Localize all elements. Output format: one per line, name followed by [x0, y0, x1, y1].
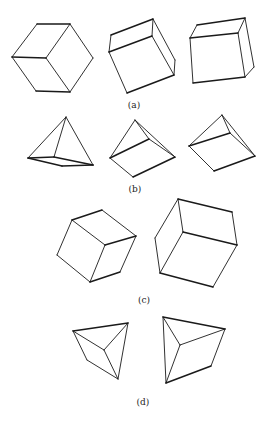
cube-a1 [12, 24, 93, 92]
labels-layer: (a) (b) (c) (d) [128, 100, 150, 407]
edge [190, 33, 238, 38]
edge [178, 199, 232, 212]
edge [66, 117, 93, 165]
figure-group-a [12, 18, 254, 93]
edge [153, 19, 175, 60]
edge [70, 24, 93, 58]
edge [70, 58, 93, 92]
edge [152, 19, 153, 36]
edge [230, 133, 255, 156]
edge [213, 245, 237, 287]
edge [166, 366, 211, 383]
edge [109, 36, 152, 52]
edge [46, 24, 70, 58]
caption-d: (d) [137, 397, 150, 407]
figure-group-b [28, 115, 255, 177]
edge [12, 57, 36, 91]
edge [166, 345, 180, 383]
edge [104, 323, 128, 350]
edge [232, 212, 237, 245]
edge [120, 236, 136, 272]
edge [190, 25, 197, 38]
edge [90, 245, 105, 282]
edge [178, 199, 183, 232]
edge [72, 220, 105, 245]
edge [163, 317, 180, 345]
edge [133, 157, 175, 177]
edge [160, 232, 183, 273]
edge [238, 33, 245, 77]
edge [72, 210, 102, 220]
caption-b: (b) [129, 184, 142, 194]
edge [57, 220, 72, 255]
cube-c2 [155, 199, 237, 287]
edge [189, 146, 214, 171]
edge [222, 115, 255, 156]
edge [12, 57, 46, 58]
edge [28, 158, 62, 166]
edge [189, 133, 230, 146]
edge [127, 75, 174, 93]
edge [135, 120, 149, 139]
edge [46, 58, 70, 92]
edge [109, 52, 127, 93]
cube-c1 [57, 210, 136, 282]
edge [183, 232, 237, 245]
edge [163, 317, 225, 329]
caption-a: (a) [128, 100, 140, 110]
figure-group-c [57, 199, 237, 287]
pyramid-b2 [110, 120, 175, 177]
edge [118, 323, 128, 379]
cube-a2 [109, 19, 175, 93]
tetra-d1 [73, 323, 128, 379]
edge [245, 18, 254, 67]
caption-c: (c) [138, 295, 150, 305]
edge [155, 199, 178, 238]
edge [193, 77, 245, 83]
edge [163, 317, 166, 383]
edge [105, 236, 136, 245]
edge [160, 273, 213, 287]
tetra-d2 [163, 317, 225, 383]
edge [57, 255, 90, 282]
edge [111, 19, 153, 35]
edge [36, 91, 70, 92]
edge [135, 120, 175, 157]
edge [12, 24, 37, 57]
edge [102, 210, 136, 236]
edge [155, 238, 160, 273]
edge [197, 18, 245, 25]
edge [238, 18, 245, 33]
edge [149, 139, 175, 157]
edge [214, 156, 255, 171]
edge [245, 67, 254, 77]
edge [174, 60, 175, 75]
edge [90, 272, 120, 282]
pyramid-b1 [28, 117, 93, 166]
edge [190, 38, 193, 83]
edge [110, 158, 133, 177]
edge [152, 36, 174, 75]
edge [109, 35, 111, 52]
shapes-layer [12, 18, 255, 383]
edge [180, 329, 225, 345]
edge [28, 157, 54, 158]
pyramid-b3 [189, 115, 255, 171]
edge [54, 157, 93, 165]
figure-canvas: (a) (b) (c) (d) [0, 0, 269, 428]
edge [62, 165, 93, 166]
edge [73, 323, 128, 331]
edge [211, 329, 225, 366]
figure-group-d [73, 317, 225, 383]
cube-a3 [190, 18, 254, 83]
